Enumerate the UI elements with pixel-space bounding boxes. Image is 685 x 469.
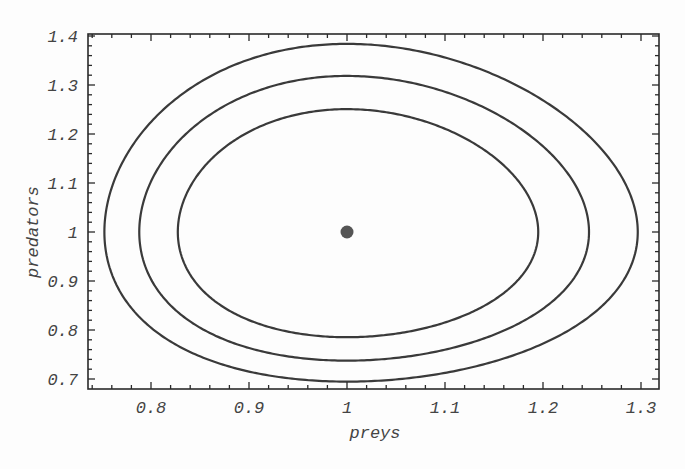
x-tick-label: 1.3 <box>626 399 657 418</box>
x-tick-label: 0.8 <box>136 399 167 418</box>
y-tick-label: 0.7 <box>47 371 78 390</box>
x-tick-label: 1 <box>342 399 352 418</box>
y-tick-label: 1.1 <box>47 175 78 194</box>
y-tick-label: 0.9 <box>47 273 78 292</box>
y-axis-title: predators <box>24 186 43 279</box>
y-tick-label: 1.2 <box>47 126 78 145</box>
y-tick-label: 1.4 <box>47 28 78 47</box>
x-tick-label: 1.2 <box>528 399 559 418</box>
equilibrium-point <box>341 226 354 239</box>
y-tick-label: 1.3 <box>47 77 78 96</box>
y-tick-label: 1 <box>68 224 78 243</box>
x-axis-title: preys <box>348 424 400 443</box>
x-tick-label: 1.1 <box>430 399 461 418</box>
phase-plot: 0.80.911.11.21.3 0.70.80.911.11.21.31.4 … <box>0 0 685 469</box>
x-tick-label: 0.9 <box>234 399 265 418</box>
y-tick-label: 0.8 <box>47 322 78 341</box>
